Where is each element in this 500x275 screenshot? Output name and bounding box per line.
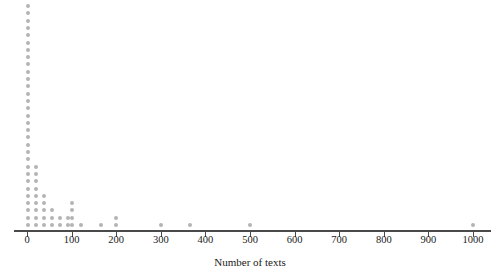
data-point bbox=[26, 11, 30, 15]
x-axis-tick-label: 400 bbox=[198, 234, 214, 245]
data-point bbox=[50, 223, 54, 227]
data-point bbox=[58, 223, 62, 227]
x-axis-tick-label: 900 bbox=[421, 234, 437, 245]
data-point bbox=[58, 216, 62, 220]
data-point bbox=[34, 165, 38, 169]
data-point bbox=[26, 77, 30, 81]
data-point bbox=[66, 216, 70, 220]
data-point bbox=[42, 201, 46, 205]
x-axis-tick-label: 500 bbox=[242, 234, 258, 245]
dot-plot-chart: 01002003004005006007008009001000 Number … bbox=[0, 0, 500, 275]
data-point bbox=[34, 201, 38, 205]
data-point bbox=[70, 223, 74, 227]
data-point bbox=[26, 114, 30, 118]
data-point bbox=[26, 84, 30, 88]
data-point bbox=[26, 99, 30, 103]
data-point bbox=[26, 179, 30, 183]
data-point bbox=[26, 172, 30, 176]
data-point bbox=[42, 216, 46, 220]
data-point bbox=[42, 208, 46, 212]
data-point bbox=[26, 194, 30, 198]
data-point bbox=[26, 143, 30, 147]
x-axis-tick-label: 1000 bbox=[463, 234, 484, 245]
data-point bbox=[79, 223, 83, 227]
data-point bbox=[70, 201, 74, 205]
data-point bbox=[26, 121, 30, 125]
data-point bbox=[26, 157, 30, 161]
data-point bbox=[34, 208, 38, 212]
data-point bbox=[26, 26, 30, 30]
data-point bbox=[188, 223, 192, 227]
data-point bbox=[34, 172, 38, 176]
data-point bbox=[26, 41, 30, 45]
data-point bbox=[26, 208, 30, 212]
data-point bbox=[159, 223, 163, 227]
data-point bbox=[26, 128, 30, 132]
data-point bbox=[99, 223, 103, 227]
x-axis-tick-label: 600 bbox=[287, 234, 303, 245]
data-point bbox=[42, 223, 46, 227]
x-axis-tick-label: 0 bbox=[24, 234, 29, 245]
data-point bbox=[26, 33, 30, 37]
data-point bbox=[70, 216, 74, 220]
data-point bbox=[26, 4, 30, 8]
data-point bbox=[26, 70, 30, 74]
data-point bbox=[248, 223, 252, 227]
x-axis-label: Number of texts bbox=[214, 256, 285, 268]
data-point bbox=[26, 135, 30, 139]
x-axis-tick-label: 700 bbox=[331, 234, 347, 245]
data-point bbox=[26, 187, 30, 191]
data-point bbox=[34, 223, 38, 227]
data-point bbox=[26, 55, 30, 59]
data-point bbox=[26, 201, 30, 205]
data-point bbox=[42, 194, 46, 198]
data-point bbox=[50, 208, 54, 212]
data-point bbox=[34, 216, 38, 220]
data-point bbox=[114, 216, 118, 220]
data-point bbox=[34, 194, 38, 198]
x-axis-line bbox=[14, 230, 491, 232]
data-point bbox=[26, 62, 30, 66]
x-axis-tick-label: 100 bbox=[64, 234, 80, 245]
x-axis-tick-label: 800 bbox=[376, 234, 392, 245]
data-point bbox=[34, 187, 38, 191]
data-point bbox=[34, 179, 38, 183]
data-point bbox=[26, 216, 30, 220]
data-point bbox=[26, 48, 30, 52]
data-point bbox=[471, 223, 475, 227]
data-point bbox=[114, 223, 118, 227]
data-point bbox=[26, 165, 30, 169]
data-point bbox=[26, 106, 30, 110]
data-point bbox=[66, 223, 70, 227]
data-point bbox=[26, 150, 30, 154]
x-axis-tick-label: 200 bbox=[108, 234, 124, 245]
data-point bbox=[26, 19, 30, 23]
x-axis-tick-label: 300 bbox=[153, 234, 169, 245]
data-point bbox=[26, 92, 30, 96]
data-point bbox=[50, 216, 54, 220]
data-point bbox=[70, 208, 74, 212]
data-point bbox=[26, 223, 30, 227]
